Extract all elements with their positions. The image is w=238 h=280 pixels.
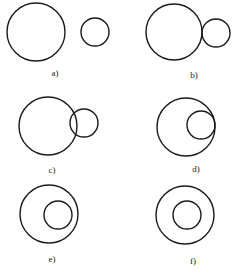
- panel-b: b): [146, 4, 230, 80]
- large-circle: [157, 98, 215, 156]
- small-circle: [44, 201, 72, 229]
- panel-label: b): [190, 70, 198, 80]
- circle-relations-diagram: a) b) c) d) e) f): [0, 0, 238, 280]
- small-circle: [187, 111, 215, 139]
- panel-label: d): [192, 164, 200, 174]
- panel-label: c): [49, 165, 56, 175]
- large-circle: [20, 185, 78, 243]
- panel-f: f): [156, 186, 214, 266]
- small-circle: [70, 109, 98, 137]
- large-circle: [146, 4, 202, 60]
- large-circle: [156, 186, 214, 244]
- panel-label: a): [52, 68, 59, 78]
- small-circle: [173, 201, 201, 229]
- panel-label: e): [49, 254, 56, 264]
- panel-a: a): [7, 3, 109, 78]
- panel-c: c): [19, 97, 98, 175]
- panel-label: f): [190, 256, 196, 266]
- small-circle: [202, 19, 230, 47]
- small-circle: [81, 18, 109, 46]
- panel-e: e): [20, 185, 78, 264]
- large-circle: [7, 3, 65, 61]
- panel-d: d): [157, 98, 215, 174]
- large-circle: [19, 97, 77, 155]
